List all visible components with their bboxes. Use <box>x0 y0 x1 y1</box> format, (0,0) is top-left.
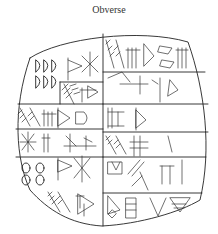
sign-grain <box>62 84 98 104</box>
signs-right-row2 <box>108 72 178 102</box>
sign-cross-star <box>68 52 98 80</box>
sign-row3-left <box>20 132 96 152</box>
sign-row4-left <box>48 156 94 216</box>
signs-right-row1 <box>106 40 188 68</box>
tablet-drawing <box>0 0 218 234</box>
signs-right-row3 <box>108 108 146 130</box>
numeral-signs-d <box>36 60 56 88</box>
row-dividers-right <box>103 72 208 193</box>
numeral-signs-circle <box>22 163 44 185</box>
signs-right-row6 <box>108 196 190 218</box>
signs-right-row5 <box>108 160 182 190</box>
sign-row2-left <box>18 108 87 128</box>
signs-right-row4 <box>106 136 172 156</box>
